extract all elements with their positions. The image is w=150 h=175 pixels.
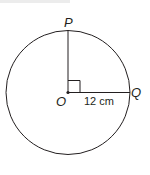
label-radius-length: 12 cm	[84, 96, 114, 107]
label-o: O	[56, 95, 66, 108]
label-q: Q	[131, 86, 141, 99]
circle-diagram	[0, 0, 150, 175]
center-point	[66, 91, 69, 94]
right-angle-marker	[68, 81, 80, 93]
label-p: P	[64, 16, 73, 29]
